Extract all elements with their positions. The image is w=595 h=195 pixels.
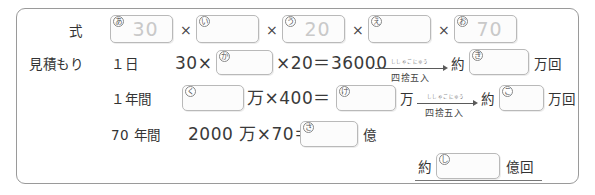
- box-value-ka: [217, 51, 272, 74]
- approx-one-day: 約: [451, 58, 465, 72]
- answer-box-ki[interactable]: き: [469, 49, 529, 75]
- unit-final: 億回: [506, 161, 534, 175]
- rounding-label-one-year: 四捨五入: [425, 106, 463, 119]
- period-one-day: １日: [111, 58, 138, 72]
- rounding-furigana-one-year: ししゃごにゅう: [427, 93, 465, 99]
- box-value-a: 30: [111, 16, 172, 42]
- answer-box-sa[interactable]: さ: [300, 121, 358, 147]
- rounding-furigana-one-day: ししゃごにゅう: [391, 58, 429, 64]
- answer-box-e[interactable]: え: [368, 15, 431, 43]
- box-value-ki: [470, 50, 528, 74]
- answer-box-ka[interactable]: か: [216, 50, 273, 75]
- box-value-sa: [301, 122, 357, 146]
- period-seventy-years: 70 年間: [111, 129, 161, 143]
- arrow-head: [473, 100, 478, 106]
- answer-box-u[interactable]: う 20: [282, 15, 345, 43]
- period-one-year: １年間: [111, 93, 152, 107]
- row-label-mitsumori: 見積もり: [29, 58, 83, 72]
- answer-box-shi[interactable]: し: [436, 153, 500, 179]
- answer-box-ko[interactable]: こ: [499, 85, 544, 111]
- arrow-line: [375, 68, 443, 69]
- answer-box-o[interactable]: お 70: [454, 15, 517, 43]
- row-label-shiki: 式: [69, 25, 83, 39]
- unit-seventy-years: 億: [363, 129, 377, 143]
- box-value-ku: [183, 86, 243, 110]
- box-value-e: [369, 16, 430, 42]
- unit-one-year: 万回: [548, 93, 576, 107]
- operator-multiply-3: ×: [352, 23, 364, 37]
- box-value-o: 70: [455, 16, 516, 42]
- operator-multiply-4: ×: [438, 23, 450, 37]
- box-value-i: [197, 16, 258, 42]
- operator-multiply-2: ×: [266, 23, 278, 37]
- expr-one-day-a: 30×: [175, 55, 212, 72]
- arrow-line: [417, 103, 473, 104]
- operator-multiply-1: ×: [180, 23, 192, 37]
- box-value-ke: [337, 86, 395, 110]
- arrow-head: [443, 65, 448, 71]
- box-value-shi: [437, 154, 499, 178]
- final-answer-underline: [415, 180, 542, 181]
- approx-one-year: 約: [481, 93, 495, 107]
- expr-one-year-b: 万: [400, 93, 414, 107]
- approx-final: 約: [418, 161, 432, 175]
- box-value-ko: [500, 86, 543, 110]
- expr-seventy-years: 2000 万×70＝: [188, 126, 312, 143]
- answer-box-a[interactable]: あ 30: [110, 15, 173, 43]
- expr-one-year-a: 万×400＝: [247, 90, 331, 107]
- answer-box-ku[interactable]: く: [182, 85, 244, 111]
- answer-box-i[interactable]: い: [196, 15, 259, 43]
- box-value-u: 20: [283, 16, 344, 42]
- answer-box-ke[interactable]: け: [336, 85, 396, 111]
- expr-one-day-b: ×20＝36000: [276, 55, 387, 72]
- unit-one-day: 万回: [534, 58, 562, 72]
- worksheet-panel: 式 あ 30 × い × う 20 × え × お 70 見積もり １日 30×…: [16, 8, 579, 184]
- rounding-label-one-day: 四捨五入: [391, 71, 429, 84]
